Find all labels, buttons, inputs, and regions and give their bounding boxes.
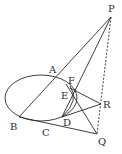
- label-R: R: [103, 99, 111, 110]
- label-C: C: [42, 127, 50, 138]
- geometry-diagram: P A F E R B C D Q: [0, 0, 122, 154]
- line-FR: [70, 88, 101, 104]
- line-PQ-dashed: [97, 17, 111, 134]
- label-B: B: [10, 121, 17, 132]
- label-E: E: [61, 90, 68, 101]
- label-D: D: [63, 117, 71, 128]
- label-Q: Q: [98, 136, 106, 147]
- label-F: F: [68, 75, 75, 86]
- line-BQ: [19, 117, 97, 134]
- label-P: P: [108, 3, 115, 14]
- label-A: A: [48, 64, 57, 75]
